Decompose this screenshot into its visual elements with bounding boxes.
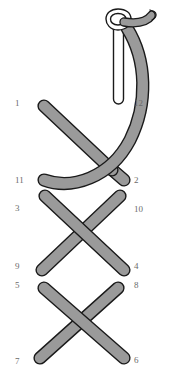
label-6: 6: [134, 356, 139, 365]
label-5: 5: [15, 281, 20, 290]
label-12: 12: [134, 99, 143, 108]
label-1: 1: [15, 99, 20, 108]
label-2: 2: [134, 176, 139, 185]
label-10: 10: [134, 205, 143, 214]
label-8: 8: [134, 281, 139, 290]
needle-shank: [114, 21, 124, 104]
label-3: 3: [15, 204, 20, 213]
label-7: 7: [15, 357, 20, 366]
suture-diagram: .rod{ fill:none; stroke:#1a1a1a; stroke-…: [0, 0, 177, 384]
label-11: 11: [15, 176, 24, 185]
label-9: 9: [15, 262, 20, 271]
label-4: 4: [134, 262, 139, 271]
